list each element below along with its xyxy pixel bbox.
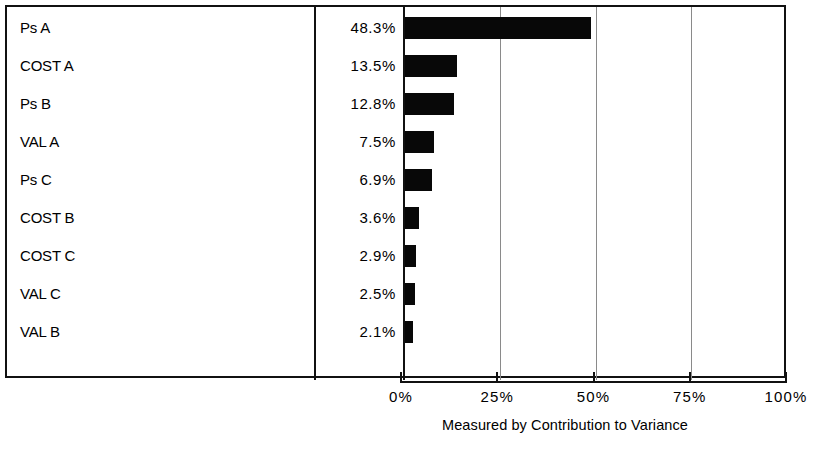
table-row: Ps C6.9% [7,161,788,199]
x-axis-tick [496,372,498,383]
bar [405,169,432,191]
x-axis-tick-label: 25% [457,388,537,405]
row-category-label: Ps A [20,9,50,47]
row-value-label: 48.3% [177,9,396,47]
row-category-label: VAL B [20,313,60,351]
row-category-label: COST A [20,47,74,85]
row-category-label: COST C [20,237,75,275]
bar [405,17,591,39]
x-axis-tick [593,372,595,383]
x-axis-tick [689,372,691,383]
chart-caption: Measured by Contribution to Variance [330,417,800,433]
table-row: VAL A7.5% [7,123,788,161]
row-category-label: Ps C [20,161,52,199]
bar [405,93,454,115]
x-axis-tick-label: 0% [361,388,441,405]
x-axis-tick-label: 100% [746,388,820,405]
table-row: Ps A48.3% [7,9,788,47]
chart-rows: Ps A48.3%COST A13.5%Ps B12.8%VAL A7.5%Ps… [7,7,788,380]
x-axis-tick [400,372,402,383]
row-value-label: 13.5% [177,47,396,85]
bar [405,131,434,153]
bar [405,55,457,77]
row-value-label: 2.9% [177,237,396,275]
row-category-label: VAL C [20,275,61,313]
table-row: COST C2.9% [7,237,788,275]
table-row: VAL C2.5% [7,275,788,313]
row-category-label: VAL A [20,123,59,161]
row-value-label: 12.8% [177,85,396,123]
row-value-label: 7.5% [177,123,396,161]
row-value-label: 2.5% [177,275,396,313]
row-value-label: 2.1% [177,313,396,351]
row-value-label: 3.6% [177,199,396,237]
row-value-label: 6.9% [177,161,396,199]
bar [405,283,415,305]
table-row: Ps B12.8% [7,85,788,123]
x-axis-tick-label: 50% [554,388,634,405]
bar [405,321,413,343]
bar [405,245,416,267]
x-axis-tick-label: 75% [650,388,730,405]
pareto-bar-chart: Ps A48.3%COST A13.5%Ps B12.8%VAL A7.5%Ps… [0,0,820,449]
bar [405,207,419,229]
table-row: COST B3.6% [7,199,788,237]
chart-frame: Ps A48.3%COST A13.5%Ps B12.8%VAL A7.5%Ps… [5,5,786,378]
table-row: VAL B2.1% [7,313,788,351]
x-axis-tick [785,372,787,383]
row-category-label: COST B [20,199,74,237]
table-row: COST A13.5% [7,47,788,85]
row-category-label: Ps B [20,85,51,123]
